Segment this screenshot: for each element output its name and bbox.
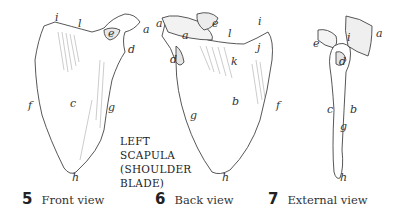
label-external-e: e	[313, 38, 320, 49]
figure-number: 6	[155, 190, 165, 208]
figure-title: LEFT SCAPULA (SHOULDER BLADE)	[120, 134, 192, 190]
figure-number: 5	[22, 190, 32, 208]
label-front-a: a	[143, 24, 150, 35]
caption-back-view: 6 Back view	[155, 190, 234, 208]
label-external-h: h	[340, 172, 347, 183]
label-back-g: g	[190, 110, 197, 121]
label-external-c: c	[327, 104, 333, 115]
label-external-g: g	[340, 121, 347, 132]
label-back-k: k	[231, 56, 238, 67]
label-external-i: i	[347, 32, 351, 43]
title-line-4: BLADE)	[120, 176, 192, 190]
caption-external-view: 7 External view	[268, 190, 368, 208]
label-back-a-acromion: a	[156, 18, 163, 29]
label-front-d: d	[128, 44, 135, 55]
label-back-h: h	[222, 172, 229, 183]
title-line-1: LEFT	[120, 134, 192, 148]
caption-front-view: 5 Front view	[22, 190, 104, 208]
label-front-h: h	[72, 172, 79, 183]
label-back-e: e	[212, 18, 219, 29]
label-external-d: d	[339, 56, 346, 67]
label-front-g: g	[108, 102, 115, 113]
label-back-b: b	[232, 96, 239, 107]
title-line-2: SCAPULA	[120, 148, 192, 162]
label-external-b: b	[350, 104, 357, 115]
label-back-f: f	[276, 100, 280, 111]
figure-number: 7	[268, 190, 278, 208]
label-back-a: a	[182, 30, 189, 41]
label-front-i: i	[55, 12, 59, 23]
label-back-j: j	[257, 42, 260, 53]
label-front-e: e	[108, 28, 115, 39]
label-front-l: l	[78, 18, 82, 29]
label-back-l: l	[228, 28, 232, 39]
caption-text: External view	[287, 193, 367, 207]
label-front-f: f	[28, 100, 32, 111]
label-back-i: i	[258, 16, 262, 27]
caption-text: Back view	[174, 193, 233, 207]
title-line-3: (SHOULDER	[120, 162, 192, 176]
label-external-a: a	[376, 28, 383, 39]
external-view-drawing	[318, 16, 372, 178]
caption-text: Front view	[41, 193, 104, 207]
label-back-d: d	[170, 54, 177, 65]
label-front-c: c	[70, 98, 76, 109]
scapula-illustration	[0, 0, 402, 185]
